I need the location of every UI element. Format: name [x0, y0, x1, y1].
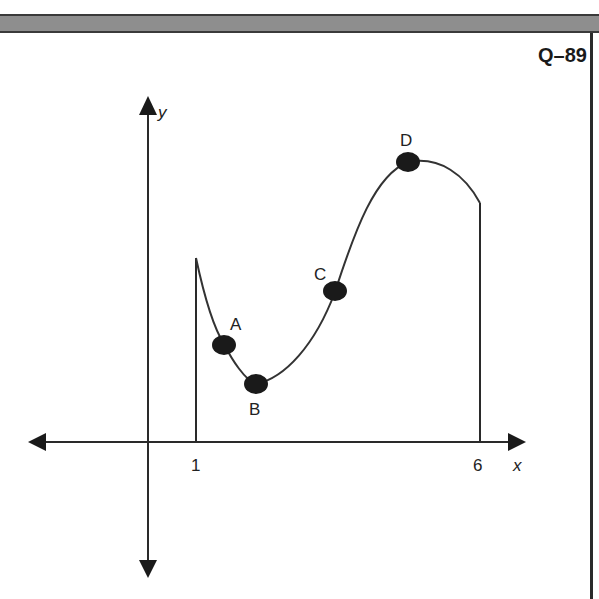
point-a	[212, 335, 236, 355]
x-tick-6: 6	[473, 456, 482, 475]
point-c	[323, 281, 347, 301]
x-tick-1: 1	[191, 456, 200, 475]
graph: A B C D 1 6 x y	[0, 0, 599, 599]
point-b	[244, 374, 268, 394]
x-axis-left-arrow-icon	[28, 433, 46, 451]
point-c-label: C	[314, 265, 326, 284]
y-axis-label: y	[157, 103, 168, 122]
point-a-label: A	[230, 315, 242, 334]
x-axis-right-arrow-icon	[508, 433, 526, 451]
x-axis-label: x	[512, 456, 522, 475]
function-curve	[196, 161, 480, 384]
point-d-label: D	[400, 131, 412, 150]
point-b-label: B	[249, 400, 260, 419]
y-axis-down-arrow-icon	[139, 560, 157, 578]
y-axis-up-arrow-icon	[139, 96, 157, 115]
point-d	[396, 152, 420, 172]
